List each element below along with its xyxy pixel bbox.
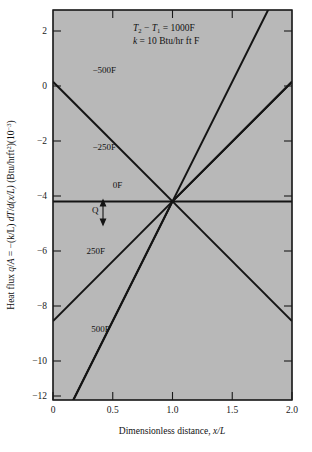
y-axis-title-units-open: (Btu/hrft xyxy=(6,149,17,183)
y-axis-title-units-mid: )(10 xyxy=(6,130,17,146)
y-axis-title-dxl: d(x/L) xyxy=(6,185,17,208)
y-tick-label: −6 xyxy=(37,246,47,256)
curve-label-500F: 500F xyxy=(91,324,110,334)
annot-value: = 1000F xyxy=(160,23,194,33)
y-tick-label: −4 xyxy=(37,191,47,201)
curve-label-250F: 250F xyxy=(87,246,106,256)
x-tick-label: 2.0 xyxy=(286,405,298,415)
y-axis-title-eq: = −(k/L) xyxy=(6,221,17,258)
annot-k-value: = 10 Btu/hr ft F xyxy=(137,36,199,46)
annot-minus: − xyxy=(142,23,152,33)
curve-label--500F: −500F xyxy=(92,65,116,75)
curve-label-0F: 0F xyxy=(113,180,123,190)
x-tick-label: 0 xyxy=(51,405,56,415)
x-axis-title-prefix: Dimensionless distance, xyxy=(119,426,213,436)
x-tick-label: 0.5 xyxy=(107,405,119,415)
annotation-temperature-difference: T2 − T1 = 1000F xyxy=(133,23,195,34)
y-axis-title-units-close: ) xyxy=(6,120,17,123)
chart-svg: 2 0 −2 −4 −6 −8 −10 −12 0 0.5 1.0 1.5 2.… xyxy=(0,0,312,452)
y-tick-label: 0 xyxy=(42,81,47,91)
y-tick-label: −8 xyxy=(37,301,47,311)
y-tick-label: −2 xyxy=(37,136,47,146)
x-tick-label: 1.0 xyxy=(167,405,179,415)
q-label: Q xyxy=(92,205,99,215)
y-tick-label: −10 xyxy=(32,356,47,366)
x-axis-title: Dimensionless distance, x/L xyxy=(119,426,225,436)
x-axis-title-symbol: x/L xyxy=(212,426,225,436)
annotation-conductivity: k = 10 Btu/hr ft F xyxy=(133,36,199,46)
plot-area-background xyxy=(53,10,292,400)
figure-container: 2 0 −2 −4 −6 −8 −10 −12 0 0.5 1.0 1.5 2.… xyxy=(0,0,312,452)
y-tick-label: −12 xyxy=(32,391,47,401)
curve-label--250F: −250F xyxy=(92,142,116,152)
y-tick-label: 2 xyxy=(42,26,47,36)
x-tick-label: 1.5 xyxy=(226,405,238,415)
y-axis-title-prefix: Heat flux xyxy=(6,272,16,310)
